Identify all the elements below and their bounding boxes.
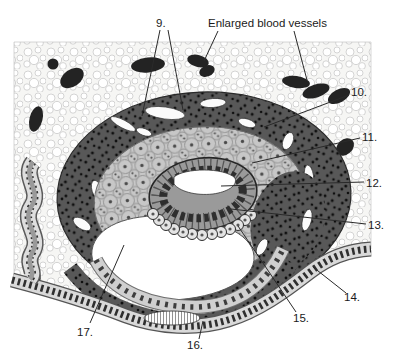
callout-13-label: 13. [368,219,384,231]
closing-plug [144,311,200,325]
callout-16-label: 16. [187,339,203,351]
blood-vessels-label: Enlarged blood vessels [208,17,327,29]
leader-line-14 [313,267,346,293]
callout-15-label: 15. [293,312,309,324]
amniotic-cavity [174,170,235,194]
implantation-figure: Enlarged blood vessels 9. 10. 11. 12. 13… [0,0,401,363]
callout-12-label: 12. [366,177,382,189]
callout-14-label: 14. [344,291,360,303]
blood-vessel-icon [48,59,59,70]
callout-11-label: 11. [362,131,377,143]
callout-9-label: 9. [156,17,166,29]
uterine-gland [28,162,35,279]
callout-10-label: 10. [351,86,367,98]
implantation-diagram: Enlarged blood vessels 9. 10. 11. 12. 13… [0,0,401,363]
callout-17-label: 17. [77,326,93,338]
